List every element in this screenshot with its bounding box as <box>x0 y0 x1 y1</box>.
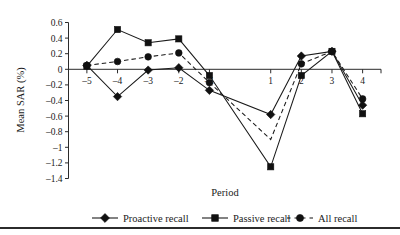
data-point-diamond <box>175 64 183 72</box>
series-line <box>87 51 363 114</box>
y-tick-label: –1.2 <box>45 158 63 168</box>
figure-container: 0.60.40.20–0.2–0.4–0.6–0.8–1–1.2–1.4 –5–… <box>0 0 400 235</box>
legend-marker-square <box>212 215 219 222</box>
legend-item-2[interactable]: All recall <box>287 213 357 224</box>
chart-legend: Proactive recallPassive recallAll recall <box>92 213 357 224</box>
y-tick-label: 0 <box>58 65 63 75</box>
y-tick-label: 0.4 <box>51 34 63 44</box>
data-point-circle <box>175 50 182 57</box>
x-tick-label: –3 <box>142 76 153 86</box>
y-tick-label: –1 <box>52 143 63 153</box>
x-axis-title: Period <box>211 187 239 198</box>
data-point-diamond <box>205 86 213 94</box>
series-line <box>87 30 363 167</box>
series-passive-recall <box>84 26 366 169</box>
legend-marker-circle <box>296 214 303 221</box>
x-tick-label: –5 <box>81 76 92 86</box>
data-point-square <box>206 72 212 78</box>
legend-label: All recall <box>318 213 357 224</box>
data-point-square <box>360 111 366 117</box>
x-tick-label: 4 <box>360 76 365 86</box>
legend-item-1[interactable]: Passive recall <box>202 213 291 224</box>
data-point-diamond <box>267 110 275 118</box>
y-axis-title: Mean SAR (%) <box>15 67 27 133</box>
legend-marker-diamond <box>101 214 110 223</box>
line-chart: 0.60.40.20–0.2–0.4–0.6–0.8–1–1.2–1.4 –5–… <box>0 0 400 235</box>
y-tick-label: –0.8 <box>45 127 63 137</box>
series-all-recall <box>84 48 366 139</box>
legend-label: Passive recall <box>233 213 291 224</box>
legend-label: Proactive recall <box>123 213 189 224</box>
data-point-circle <box>114 58 121 65</box>
y-tick-label: –0.6 <box>45 112 63 122</box>
data-point-square <box>114 26 120 32</box>
x-tick-label: 1 <box>268 76 273 86</box>
data-point-square <box>145 40 151 46</box>
figure-bottom-rule <box>0 227 400 229</box>
data-point-circle <box>145 53 152 60</box>
y-tick-label: 0.2 <box>51 49 63 59</box>
x-tick-label: 3 <box>330 76 335 86</box>
data-point-square <box>298 72 304 78</box>
data-point-circle <box>206 79 213 86</box>
data-point-square <box>176 36 182 42</box>
data-series-group <box>83 26 367 169</box>
y-tick-label: –1.4 <box>45 174 63 184</box>
y-tick-label: –0.4 <box>45 96 63 106</box>
y-axis: 0.60.40.20–0.2–0.4–0.6–0.8–1–1.2–1.4 <box>45 18 69 184</box>
x-tick-label: –4 <box>112 76 123 86</box>
series-line <box>87 51 363 139</box>
data-point-diamond <box>297 52 305 60</box>
x-axis: –5–4–3–2–11234 <box>69 69 382 86</box>
y-tick-label: –0.2 <box>45 80 63 90</box>
legend-item-0[interactable]: Proactive recall <box>92 213 189 224</box>
data-point-square <box>268 164 274 170</box>
y-tick-label: 0.6 <box>51 18 63 28</box>
x-tick-label: –2 <box>173 76 184 86</box>
